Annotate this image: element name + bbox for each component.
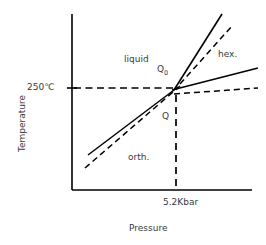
point-label-q-zero: Q0 [157,65,168,76]
x-axis-label: Pressure [129,224,167,233]
y-tick-label-250c: 250℃ [27,83,54,92]
metastable-lower-boundary [174,88,258,94]
region-label-hexagonal: hex. [218,50,237,59]
region-label-liquid: liquid [124,55,149,64]
point-label-q-zero-subscript: 0 [164,69,168,77]
phase-diagram: liquid hex. orth. Q0 Q 250℃ 5.2Kbar Temp… [0,0,266,245]
phase-diagram-plot [0,0,266,245]
boundary-liquid-orth [88,87,178,155]
x-tick-label-5-2kbar: 5.2Kbar [163,198,198,207]
region-label-orthorhombic: orth. [128,153,149,162]
y-axis-label: Temperature [18,95,27,152]
point-label-q: Q [162,112,169,121]
